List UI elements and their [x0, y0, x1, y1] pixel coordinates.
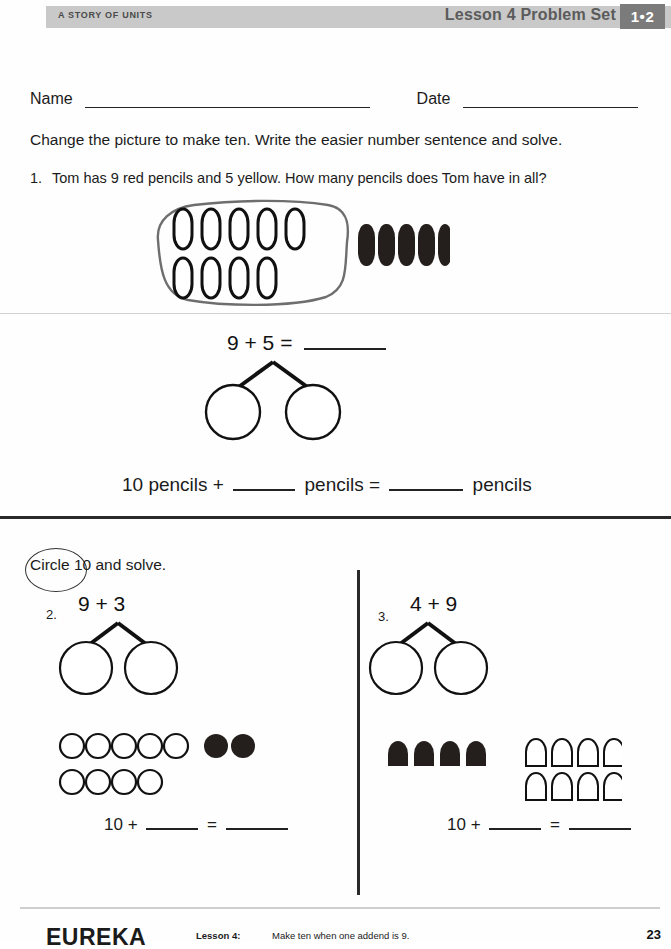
p3-eq-blank-1[interactable] — [489, 814, 541, 830]
problem-1-number: 1. — [30, 170, 52, 186]
name-input-line[interactable] — [85, 93, 370, 108]
p3-open-shapes-row-2 — [526, 773, 622, 800]
header-series-label: A STORY OF UNITS — [58, 10, 153, 20]
instruction-text: Change the picture to make ten. Write th… — [30, 131, 562, 149]
problem-1-number-bond: 9 + 5 = — [185, 330, 405, 440]
bond-part-circle-right[interactable] — [286, 385, 340, 439]
problem-3-expression: 4 + 9 — [410, 592, 457, 616]
module-badge: 1•2 — [620, 4, 665, 29]
eq1-part-b: pencils = — [305, 474, 381, 495]
p3-bond-circle-left[interactable] — [370, 642, 422, 694]
section-2-instruction: Circle 10 and solve. — [30, 556, 166, 574]
footer-lesson-label: Lesson 4: — [196, 930, 240, 941]
eq1-blank-1[interactable] — [233, 473, 295, 491]
p2-eq-prefix: 10 + — [104, 815, 138, 834]
filled-pencils-row — [358, 224, 450, 266]
p3-eq-prefix: 10 + — [447, 815, 481, 834]
p2-filled-circles-row-1 — [204, 734, 258, 758]
problem-3-number-bond — [368, 618, 538, 698]
divider-thick — [0, 516, 671, 519]
eq1-part-c: pencils — [473, 474, 532, 495]
page-title: Lesson 4 Problem Set — [445, 6, 616, 24]
divider-thin-top — [0, 313, 671, 314]
footer-lesson-description: Make ten when one addend is 9. — [272, 930, 409, 941]
outlined-pencils-row-1 — [174, 209, 304, 249]
bond-part-circle-left[interactable] — [206, 385, 260, 439]
date-label: Date — [417, 90, 451, 107]
p3-eq-equals: = — [550, 815, 560, 834]
p2-bond-circle-right[interactable] — [125, 642, 177, 694]
p2-open-circles-row-2 — [60, 770, 162, 794]
eureka-logo: EUREKA — [46, 924, 146, 949]
problem-3-counters — [386, 724, 622, 802]
p3-bond-circle-right[interactable] — [435, 642, 487, 694]
problem-2-number: 2. — [46, 607, 57, 622]
problem-1-answer-blank[interactable] — [304, 330, 386, 350]
problem-1-pencil-picture — [150, 196, 450, 308]
p2-eq-blank-1[interactable] — [146, 814, 198, 830]
p2-eq-blank-2[interactable] — [226, 814, 288, 830]
problem-1-prompt: 1.Tom has 9 red pencils and 5 yellow. Ho… — [30, 170, 547, 186]
p2-bond-circle-left[interactable] — [60, 642, 112, 694]
divider-vertical — [357, 570, 360, 895]
eq1-blank-2[interactable] — [389, 473, 463, 491]
problem-2-expression: 9 + 3 — [78, 592, 125, 616]
p2-open-circles-row-1 — [60, 734, 188, 758]
footer-divider — [20, 907, 660, 909]
problem-2-counters — [58, 730, 258, 800]
p2-eq-equals: = — [207, 815, 217, 834]
problem-2-equation: 10 + = — [104, 814, 288, 835]
date-input-line[interactable] — [463, 93, 638, 108]
name-date-row: Name Date — [30, 90, 640, 112]
problem-2-number-bond — [58, 618, 228, 698]
problem-1-text: Tom has 9 red pencils and 5 yellow. How … — [52, 170, 547, 186]
page-number: 23 — [647, 927, 661, 942]
p3-open-shapes-row-1 — [526, 739, 622, 766]
outlined-pencils-row-2 — [174, 258, 276, 298]
problem-1-bond-graphic — [185, 356, 405, 442]
p3-filled-shapes-row-1 — [388, 741, 486, 766]
problem-3-equation: 10 + = — [447, 814, 631, 835]
problem-1-number-sentence: 9 + 5 = — [227, 330, 386, 355]
eq1-part-a: 10 pencils + — [122, 474, 224, 495]
p3-eq-blank-2[interactable] — [569, 814, 631, 830]
name-label: Name — [30, 90, 73, 107]
problem-1-equation: 10 pencils + pencils = pencils — [122, 473, 532, 496]
